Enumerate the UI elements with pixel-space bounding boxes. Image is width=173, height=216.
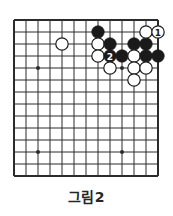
- stone-white-8-4[interactable]: [104, 62, 116, 74]
- star-point-2: [36, 150, 40, 154]
- white-stone: [56, 38, 68, 50]
- stone-white-7-2[interactable]: [92, 38, 104, 50]
- stone-white-11-4[interactable]: [140, 62, 152, 74]
- stone-white-4-2[interactable]: [56, 38, 68, 50]
- stone-black-8-2[interactable]: [104, 38, 116, 50]
- white-stone: [140, 62, 152, 74]
- move-number-label-2: 2: [107, 52, 113, 62]
- white-stone: [92, 50, 104, 62]
- star-point-0: [36, 66, 40, 70]
- stone-white-10-4[interactable]: [128, 62, 140, 74]
- go-board: 12: [0, 0, 173, 190]
- white-stone: [92, 38, 104, 50]
- stone-white-10-3[interactable]: [128, 50, 140, 62]
- stone-black-11-3[interactable]: [140, 50, 152, 62]
- white-stone: [128, 62, 140, 74]
- stone-white-7-3[interactable]: [92, 50, 104, 62]
- black-stone: [128, 38, 140, 50]
- stone-black-7-1[interactable]: [92, 26, 104, 38]
- stone-black-8-3[interactable]: 2: [104, 50, 116, 62]
- black-stone: [140, 38, 152, 50]
- black-stone: [104, 38, 116, 50]
- black-stone: [140, 50, 152, 62]
- go-diagram-figure: 12 그림2: [0, 0, 173, 216]
- white-stone: [140, 26, 152, 38]
- stone-black-12-3[interactable]: [152, 50, 164, 62]
- star-point-1: [120, 66, 124, 70]
- star-point-3: [120, 150, 124, 154]
- stone-white-12-1[interactable]: 1: [152, 26, 164, 38]
- stone-black-10-2[interactable]: [128, 38, 140, 50]
- stone-white-10-5[interactable]: [128, 74, 140, 86]
- white-stone: [104, 62, 116, 74]
- move-number-label-1: 1: [155, 28, 161, 38]
- stone-black-11-2[interactable]: [140, 38, 152, 50]
- black-stone: [92, 26, 104, 38]
- black-stone: [152, 50, 164, 62]
- white-stone: [128, 50, 140, 62]
- figure-caption: 그림2: [0, 186, 173, 206]
- stone-white-11-1[interactable]: [140, 26, 152, 38]
- stone-black-9-3[interactable]: [116, 50, 128, 62]
- black-stone: [116, 50, 128, 62]
- white-stone: [128, 74, 140, 86]
